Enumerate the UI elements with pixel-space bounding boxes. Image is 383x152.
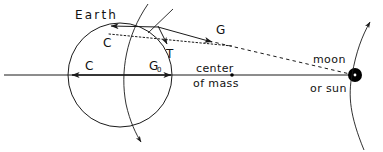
vector-t-label: T xyxy=(165,47,174,61)
tidal-force-diagram: Earth C G T C G 0 center of mass moon or… xyxy=(0,0,383,152)
vector-c-surface-arrow xyxy=(111,26,158,27)
vector-c-axis-label: C xyxy=(85,59,93,73)
or-sun-label: or sun xyxy=(310,82,347,95)
moon-label: moon xyxy=(313,53,346,66)
vector-c-surface-label: C xyxy=(103,36,111,50)
center-of-mass-label-line2: of mass xyxy=(193,77,239,90)
construction-dotted-line xyxy=(109,34,232,46)
vector-g-surface-label: G xyxy=(216,23,225,37)
diagram-canvas: Earth C G T C G 0 center of mass moon or… xyxy=(0,0,383,152)
vector-g0-axis-subscript: 0 xyxy=(157,66,161,74)
orbit-arc xyxy=(350,22,370,150)
earth-label: Earth xyxy=(75,8,118,22)
earth-rotation-pointer-line xyxy=(148,9,173,33)
moon-or-sun-center-dot xyxy=(354,74,357,77)
center-of-mass-label-line1: center xyxy=(196,62,234,75)
